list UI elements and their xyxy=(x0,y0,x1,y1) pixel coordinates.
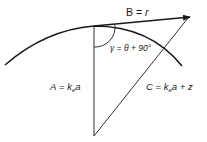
side-c-line xyxy=(94,18,188,136)
label-gamma: γ = θ + 90° xyxy=(110,43,152,53)
label-b: B = r xyxy=(126,6,149,18)
label-a: A = kea xyxy=(49,81,81,93)
earth-surface-arc xyxy=(5,26,182,66)
earth-curvature-triangle-diagram: B = r γ = θ + 90° A = kea C = kea + z xyxy=(0,0,207,142)
side-b-arrow xyxy=(94,17,190,26)
label-c: C = kea + z xyxy=(146,81,193,93)
